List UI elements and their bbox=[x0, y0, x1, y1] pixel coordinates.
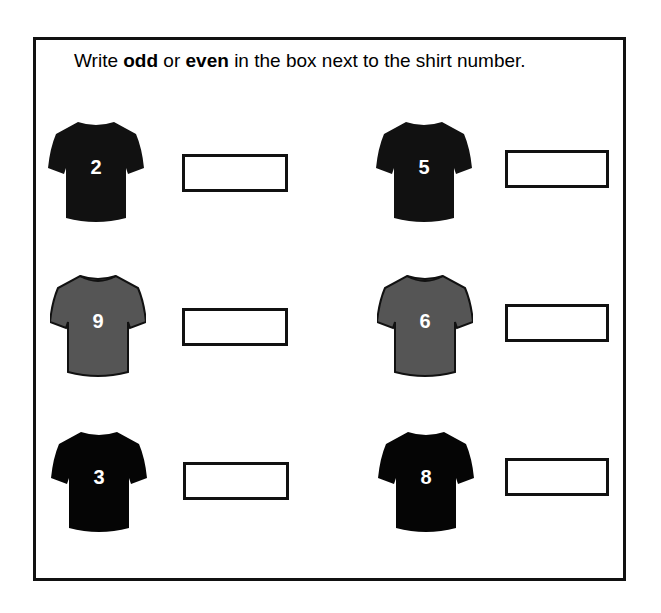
shirt-3: 3 bbox=[51, 428, 147, 534]
shirt-number: 3 bbox=[51, 466, 147, 489]
shirt-2: 2 bbox=[48, 118, 144, 224]
answer-box-shirt-3[interactable] bbox=[183, 462, 289, 500]
instruction-suffix: in the box next to the shirt number. bbox=[229, 50, 526, 71]
answer-box-shirt-2[interactable] bbox=[182, 154, 288, 192]
instruction-text: Write odd or even in the box next to the… bbox=[74, 50, 526, 72]
answer-box-shirt-9[interactable] bbox=[182, 308, 288, 346]
shirt-9: 9 bbox=[50, 272, 146, 378]
instruction-even: even bbox=[186, 50, 229, 71]
instruction-odd: odd bbox=[123, 50, 158, 71]
answer-box-shirt-5[interactable] bbox=[505, 150, 609, 188]
shirt-5: 5 bbox=[376, 118, 472, 224]
instruction-middle: or bbox=[158, 50, 185, 71]
instruction-prefix: Write bbox=[74, 50, 123, 71]
shirt-8: 8 bbox=[378, 428, 474, 534]
shirt-6: 6 bbox=[377, 272, 473, 378]
shirt-number: 6 bbox=[377, 310, 473, 333]
shirt-number: 5 bbox=[376, 156, 472, 179]
shirt-number: 9 bbox=[50, 310, 146, 333]
answer-box-shirt-6[interactable] bbox=[505, 304, 609, 342]
shirt-number: 8 bbox=[378, 466, 474, 489]
answer-box-shirt-8[interactable] bbox=[505, 458, 609, 496]
shirt-number: 2 bbox=[48, 156, 144, 179]
